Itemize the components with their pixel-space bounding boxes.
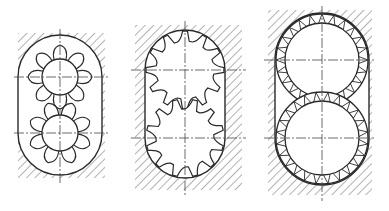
figure-fine-tooth-pump — [264, 6, 376, 201]
figure-lobe-pump — [14, 29, 109, 184]
figure-spur-gear-pump — [131, 21, 246, 196]
gear-pump-diagram — [0, 0, 389, 211]
diagram-svg — [0, 0, 389, 211]
